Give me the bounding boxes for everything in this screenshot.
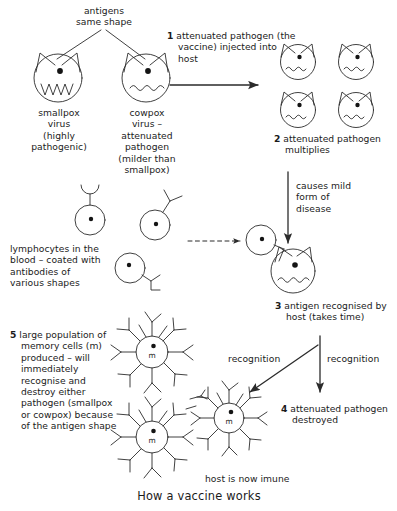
step-1-body: attenuated pathogen (the vaccine) inject… [176,30,295,64]
step-2-text: 2 attenuated pathogen multiplies [274,133,397,156]
step-3-text: 3 antigen recognised by host (takes time… [275,300,397,323]
vaccine-diagram: antigens same shape smallpox virus (high… [0,0,397,511]
recognition-left-label: recognition [228,353,298,364]
antigen-connector-lines [57,30,145,59]
recognition-right-label: recognition [327,353,397,364]
multiplied-pathogen-3 [281,92,316,128]
causes-mild-disease-label: causes mild form of disease [296,180,376,214]
step-2-body: attenuated pathogen multiplies [283,133,381,155]
step-5-text: 5 large population of memory cells (m) p… [10,329,123,432]
step-2-number: 2 [274,133,280,144]
lymphocyte-y [140,190,182,240]
recognised-pathogen-icon [271,247,315,293]
smallpox-virus-icon [34,53,82,102]
bound-lymphocyte [246,225,284,261]
step-3-body: antigen recognised by host (takes time) [284,300,386,322]
figure-caption: How a vaccine works [99,489,299,503]
step-4-text: 4 attenuated pathogen destroyed [281,403,397,426]
smallpox-label: smallpox virus (highly pathogenic) [17,107,101,153]
memory-cell-1-letter: m [144,351,160,360]
step-5-body: large population of memory cells (m) pro… [19,329,116,431]
step-5-number: 5 [10,329,16,340]
cowpox-label: cowpox virus – attenuated pathogen (mild… [104,107,190,175]
antibody-fragments [186,390,207,409]
host-immune-label: host is now imune [205,473,325,484]
step-3-number: 3 [275,300,281,311]
multiplied-pathogen-4 [339,92,374,128]
memory-cell-2-letter: m [144,436,160,445]
step-4-body: attenuated pathogen destroyed [290,403,388,425]
lymphocyte-cup [75,185,105,235]
lymphocytes-label: lymphocytes in the blood – coated with a… [10,243,122,289]
step-1-text: 1 attenuated pathogen (the vaccine) inje… [167,30,296,64]
antigens-same-shape-label: antigens same shape [62,5,146,28]
cowpox-virus-icon [122,53,170,102]
step-4-number: 4 [281,403,287,414]
multiplied-pathogen-2 [339,44,374,80]
memory-cell-3-letter: m [221,417,237,426]
step-1-number: 1 [167,30,173,41]
